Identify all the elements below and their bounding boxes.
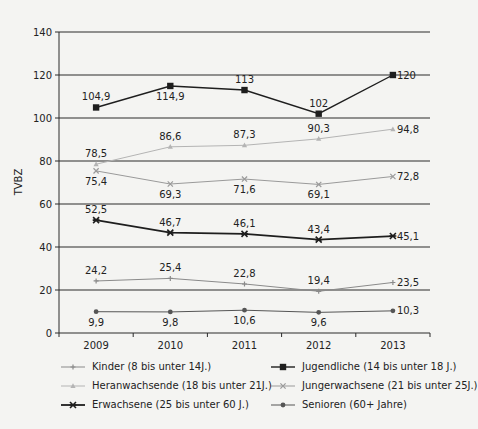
star-marker-icon [390, 233, 397, 239]
x-tick-label: 2013 [380, 340, 405, 351]
legend-label: Erwachsene (25 bis unter 60 J.) [92, 396, 249, 413]
y-tick-label: 120 [33, 70, 52, 81]
legend-label: Kinder (8 bis unter 14J.) [92, 358, 211, 375]
data-label: 120 [397, 70, 416, 81]
square-marker-icon [390, 72, 396, 78]
data-label: 87,3 [233, 129, 255, 140]
x-tick-label: 2011 [232, 340, 257, 351]
data-label: 114,9 [156, 91, 185, 102]
legend-swatch-icon [60, 381, 86, 391]
data-label: 24,2 [85, 265, 107, 276]
legend-item: Jugendliche (14 bis unter 18 J.) [270, 358, 455, 375]
data-label: 43,4 [308, 224, 330, 235]
plus-marker-icon [71, 364, 76, 369]
triangle-marker-icon [390, 126, 395, 131]
legend-label: Heranwachsende (18 bis unter 21J.) [92, 377, 272, 394]
data-label: 9,9 [88, 317, 104, 328]
data-label: 78,5 [85, 148, 107, 159]
data-label: 75,4 [85, 176, 107, 187]
data-label: 9,8 [162, 317, 178, 328]
square-marker-icon [280, 363, 286, 369]
square-marker-icon [167, 83, 173, 89]
y-axis-title: TVBZ [13, 169, 24, 197]
star-marker-icon [70, 402, 77, 408]
legend-label: Jungerwachsene (21 bis unter 25J.) [302, 377, 478, 394]
data-label: 23,5 [397, 277, 419, 288]
circle-marker-icon [281, 402, 286, 407]
legend-swatch-icon [60, 362, 86, 372]
circle-marker-icon [168, 310, 173, 315]
circle-marker-icon [94, 309, 99, 314]
circle-marker-icon [316, 310, 321, 315]
data-label: 45,1 [397, 231, 419, 242]
data-label: 69,1 [308, 189, 330, 200]
legend-label: Jugendliche (14 bis unter 18 J.) [302, 358, 457, 375]
line-chart: 02040608010012014020092010201120122013 2… [0, 0, 458, 360]
square-marker-icon [93, 104, 99, 110]
legend-item: Jungerwachsene (21 bis unter 25J.) [270, 377, 455, 394]
legend-swatch-icon [270, 400, 296, 410]
circle-marker-icon [391, 308, 396, 313]
square-marker-icon [241, 87, 247, 93]
data-label: 102 [309, 98, 328, 109]
data-label: 25,4 [159, 262, 181, 273]
data-label: 69,3 [159, 189, 181, 200]
data-label: 19,4 [308, 275, 330, 286]
y-tick-label: 40 [39, 242, 52, 253]
star-marker-icon [93, 217, 100, 223]
data-label: 22,8 [233, 268, 255, 279]
y-tick-label: 20 [39, 285, 52, 296]
legend-item: Erwachsene (25 bis unter 60 J.) [60, 396, 270, 413]
data-label: 104,9 [82, 91, 111, 102]
x-tick-label: 2009 [83, 340, 108, 351]
y-tick-label: 140 [33, 27, 52, 38]
star-marker-icon [315, 237, 322, 243]
data-label: 86,6 [159, 131, 181, 142]
series-line [94, 308, 396, 315]
legend-label: Senioren (60+ Jahre) [302, 396, 407, 413]
y-tick-label: 100 [33, 113, 52, 124]
x-tick-label: 2010 [158, 340, 183, 351]
square-marker-icon [316, 111, 322, 117]
plus-marker-icon [242, 281, 247, 286]
star-marker-icon [241, 231, 248, 237]
data-label: 10,6 [233, 315, 255, 326]
data-label: 46,1 [233, 218, 255, 229]
legend-item: Heranwachsende (18 bis unter 21J.) [60, 377, 270, 394]
plus-marker-icon [168, 276, 173, 281]
star-marker-icon [167, 230, 174, 236]
x-tick-label: 2012 [306, 340, 331, 351]
y-tick-label: 80 [39, 156, 52, 167]
legend-item: Senioren (60+ Jahre) [270, 396, 455, 413]
plus-marker-icon [390, 280, 395, 285]
y-tick-label: 0 [46, 328, 52, 339]
data-label: 9,6 [311, 317, 327, 328]
data-label: 90,3 [308, 123, 330, 134]
data-label: 94,8 [397, 124, 419, 135]
series-path [96, 171, 393, 185]
legend-swatch-icon [270, 362, 296, 372]
legend: Kinder (8 bis unter 14J.)Jugendliche (14… [60, 358, 455, 413]
data-label: 46,7 [159, 217, 181, 228]
data-label: 113 [235, 74, 254, 85]
plus-marker-icon [94, 278, 99, 283]
legend-item: Kinder (8 bis unter 14J.) [60, 358, 270, 375]
legend-swatch-icon [270, 381, 296, 391]
legend-swatch-icon [60, 400, 86, 410]
data-label: 52,5 [85, 204, 107, 215]
y-tick-label: 60 [39, 199, 52, 210]
gridlines [59, 32, 430, 290]
data-label: 10,3 [397, 305, 419, 316]
data-label: 72,8 [397, 171, 419, 182]
circle-marker-icon [242, 308, 247, 313]
data-label: 71,6 [233, 184, 255, 195]
